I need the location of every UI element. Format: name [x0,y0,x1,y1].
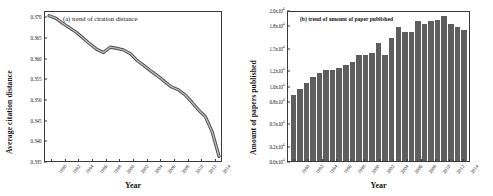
figure-container: Average citation distance (a) trend of c… [0,0,493,196]
y-tick-mark [44,141,47,142]
y-tick-label: 2.0x104 [269,8,287,14]
y-tick-mark [44,99,47,100]
x-tick-mark [435,159,436,162]
y-tick-mark [287,26,290,27]
y-tick-label: 1.5x104 [269,46,287,52]
x-tick-label: 2014 [222,164,232,175]
x-tick-label: 2006 [413,164,423,175]
bar [330,70,335,161]
y-tick-mark [44,120,47,121]
bar [310,77,315,161]
x-tick-label: 1998 [112,164,122,175]
bar [304,83,309,161]
y-tick-label: 0.355 [31,76,44,82]
x-tick-label: 1990 [58,164,68,175]
y-tick-label: 0.340 [31,138,44,144]
y-tick-mark [287,71,290,72]
x-tick-mark [78,159,79,162]
bar [323,70,328,161]
y-tick-label: 0.345 [31,118,44,124]
bar [428,21,433,161]
y-tick-label: 0.2x104 [269,144,287,150]
x-tick-label: 1996 [343,164,353,175]
x-tick-label: 1990 [301,164,311,175]
y-tick-mark [44,37,47,38]
y-tick-label: 1.2x104 [269,68,287,74]
y-tick-mark [287,86,290,87]
line-path-outline [49,16,219,157]
y-tick-mark [44,58,47,59]
bar [415,21,420,161]
x-tick-mark [133,159,134,162]
x-tick-mark [65,159,66,162]
bar [363,55,368,161]
y-tick-mark [44,79,47,80]
x-tick-label: 2004 [153,164,163,175]
x-tick-label: 1996 [99,164,109,175]
x-tick-mark [350,159,351,162]
bar [291,95,296,161]
x-tick-mark [336,159,337,162]
bar [422,24,427,161]
x-tick-mark [119,159,120,162]
x-tick-mark [294,159,295,162]
y-tick-mark [287,101,290,102]
bar [435,20,440,161]
x-tick-label: 2002 [140,164,150,175]
bar [455,27,460,161]
x-tick-label: 2000 [126,164,136,175]
x-tick-mark [174,159,175,162]
y-tick-mark [287,146,290,147]
x-tick-mark [322,159,323,162]
x-tick-mark [160,159,161,162]
x-tick-mark [188,159,189,162]
bar [461,30,466,161]
x-tick-label: 2004 [399,164,409,175]
x-tick-mark [364,159,365,162]
bar [402,32,407,161]
x-tick-label: 2010 [441,164,451,175]
y-tick-mark [287,124,290,125]
x-tick-label: 1994 [329,164,339,175]
y-tick-label: 0.360 [31,56,44,62]
x-tick-label: 2000 [371,164,381,175]
x-tick-mark [407,159,408,162]
panel-b-plot-area: (b) trend of amount of paper published [287,11,470,162]
y-tick-label: 0.8x104 [269,99,287,105]
x-tick-mark [449,159,450,162]
x-tick-mark [393,159,394,162]
y-tick-mark [44,17,47,18]
x-tick-mark [308,159,309,162]
x-tick-mark [379,159,380,162]
bar [336,68,341,161]
panel-b-papers-published: Amount of papers published (b) trend of … [240,0,493,196]
y-tick-mark [287,162,290,163]
panel-b-x-axis-label: Year [287,181,470,190]
x-tick-label: 1998 [357,164,367,175]
bar [343,65,348,161]
bar [448,24,453,161]
y-tick-label: 1.0x104 [269,84,287,90]
x-tick-label: 2008 [181,164,191,175]
x-tick-label: 2012 [456,164,466,175]
x-tick-label: 1994 [85,164,95,175]
y-tick-label: 0.370 [31,14,44,20]
y-tick-label: 0.5x104 [269,121,287,127]
x-tick-label: 1992 [71,164,81,175]
x-tick-mark [463,159,464,162]
x-tick-mark [51,159,52,162]
y-tick-label: 0.335 [31,159,44,165]
bar [350,62,355,161]
y-tick-mark [287,48,290,49]
bar [441,16,446,161]
panel-b-bar-series [288,12,469,161]
y-tick-mark [287,11,290,12]
bar [369,53,374,161]
x-tick-label: 2006 [167,164,177,175]
y-tick-label: 0.0x104 [269,159,287,165]
y-tick-label: 0.350 [31,97,44,103]
bar [297,89,302,161]
y-tick-label: 1.8x104 [269,23,287,29]
x-tick-label: 1992 [315,164,325,175]
x-tick-mark [215,159,216,162]
